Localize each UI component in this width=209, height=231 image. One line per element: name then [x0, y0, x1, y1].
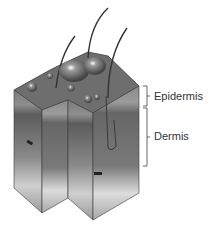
dermis-bracket: [143, 108, 150, 166]
left-face: [14, 90, 42, 213]
pore: [47, 73, 53, 79]
gland-bump: [84, 57, 106, 75]
pore: [68, 85, 75, 92]
pore: [27, 82, 37, 92]
dermis-label: Dermis: [154, 131, 189, 142]
skin-diagram: Epidermis Dermis: [0, 0, 209, 231]
notch-right-face: [68, 100, 93, 220]
vessel: [94, 172, 102, 175]
epidermis-bracket: [143, 86, 150, 106]
skin-block-illustration: [0, 0, 209, 231]
epidermis-label: Epidermis: [154, 91, 203, 102]
gland-bump: [59, 60, 89, 82]
notch-left-face: [42, 100, 68, 213]
pore: [94, 94, 100, 100]
pore: [84, 95, 92, 103]
hair: [88, 8, 108, 58]
